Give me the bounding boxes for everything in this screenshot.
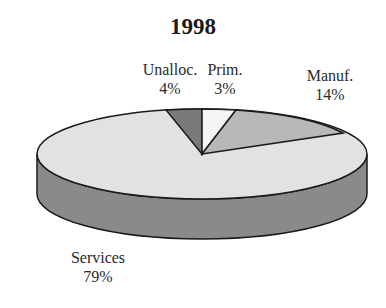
slice-value: 4% bbox=[130, 79, 210, 98]
label-services: Services 79% bbox=[58, 248, 138, 286]
slice-value: 3% bbox=[200, 79, 250, 98]
label-manuf: Manuf. 14% bbox=[295, 66, 365, 104]
slice-value: 14% bbox=[295, 85, 365, 104]
slice-label: Services bbox=[58, 248, 138, 267]
label-prim: Prim. 3% bbox=[200, 60, 250, 98]
slice-label: Prim. bbox=[200, 60, 250, 79]
slice-value: 79% bbox=[58, 267, 138, 286]
slice-label: Manuf. bbox=[295, 66, 365, 85]
label-unalloc: Unalloc. 4% bbox=[130, 60, 210, 98]
slice-label: Unalloc. bbox=[130, 60, 210, 79]
